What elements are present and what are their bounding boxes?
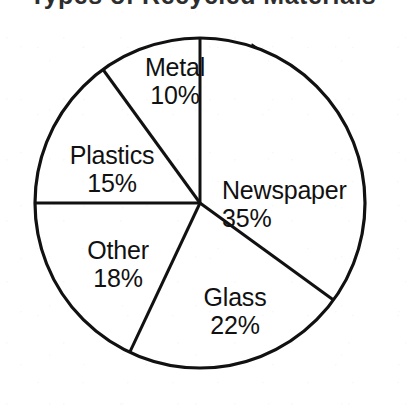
- slice-label-other: Other 18%: [64, 236, 172, 292]
- slice-label-glass: Glass 22%: [180, 283, 290, 339]
- slice-label-plastics: Plastics 15%: [52, 141, 172, 197]
- slice-label-newspaper-value: 35%: [222, 204, 347, 232]
- slice-label-glass-name: Glass: [180, 283, 290, 311]
- slice-label-glass-value: 22%: [180, 311, 290, 339]
- slice-label-metal-name: Metal: [122, 53, 228, 81]
- slice-label-plastics-value: 15%: [52, 169, 172, 197]
- slice-label-plastics-name: Plastics: [52, 141, 172, 169]
- slice-label-metal: Metal 10%: [122, 53, 228, 109]
- pie-chart-figure: Types of Recycled Materials Newspaper 35…: [0, 0, 406, 410]
- slice-label-other-value: 18%: [64, 264, 172, 292]
- slice-label-other-name: Other: [64, 236, 172, 264]
- slice-label-newspaper: Newspaper 35%: [222, 176, 347, 232]
- slice-label-newspaper-name: Newspaper: [222, 176, 347, 204]
- slice-label-metal-value: 10%: [122, 81, 228, 109]
